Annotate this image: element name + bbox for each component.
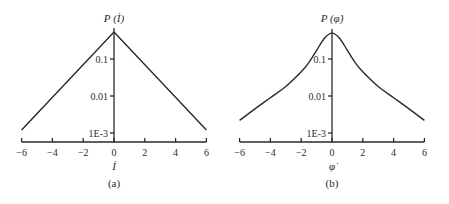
panel-b: −6−4−202460.10.011E-3P (φ̇)φ̇(b) (234, 12, 427, 190)
x-tick-label: −2 (78, 147, 89, 158)
y-tick-label: 0.01 (309, 91, 327, 102)
x-tick-label: −4 (265, 147, 276, 158)
x-axis-title: φ̇ (329, 160, 339, 172)
y-tick-label: 0.1 (96, 54, 109, 65)
x-tick-label: −6 (234, 147, 245, 158)
panel-caption: (a) (108, 177, 121, 190)
y-tick-label: 0.1 (314, 54, 327, 65)
chart-figure: −6−4−202460.10.011E-3P (İ)İ(a) −6−4−2024… (0, 0, 449, 204)
x-tick-label: 4 (173, 147, 178, 158)
x-tick-label: 0 (112, 147, 117, 158)
x-tick-label: 6 (204, 147, 209, 158)
y-axis-title: P (φ̇) (320, 12, 344, 25)
x-tick-label: 4 (391, 147, 396, 158)
x-tick-label: −2 (296, 147, 307, 158)
panel-a: −6−4−202460.10.011E-3P (İ)İ(a) (16, 12, 209, 190)
y-axis-title: P (İ) (103, 12, 125, 25)
y-tick-label: 1E-3 (89, 128, 108, 139)
x-tick-label: −4 (47, 147, 58, 158)
x-tick-label: 0 (330, 147, 335, 158)
x-tick-label: 6 (422, 147, 427, 158)
x-tick-label: 2 (142, 147, 147, 158)
panel-caption: (b) (326, 177, 339, 190)
y-tick-label: 0.01 (91, 91, 109, 102)
x-axis-title: İ (111, 160, 117, 172)
x-tick-label: −6 (16, 147, 27, 158)
y-tick-label: 1E-3 (307, 128, 326, 139)
x-tick-label: 2 (360, 147, 365, 158)
